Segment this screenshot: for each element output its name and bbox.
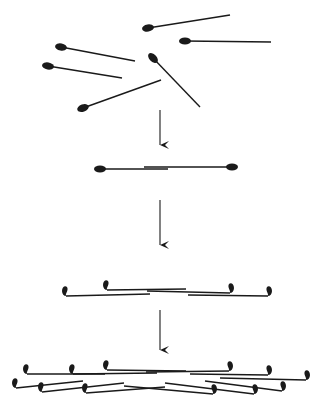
molecule-head: [103, 360, 109, 370]
molecule-tail: [148, 15, 230, 28]
molecule-head: [252, 384, 258, 394]
molecule: [23, 364, 105, 374]
molecule: [146, 51, 200, 107]
assembly-diagram: [0, 0, 323, 404]
molecule-tail: [185, 41, 271, 42]
molecule-tail: [66, 294, 150, 296]
stage-dimer: [94, 164, 238, 173]
molecule-head: [38, 382, 44, 392]
molecule-head: [266, 286, 272, 296]
molecule-head: [94, 166, 106, 173]
molecule-head: [69, 364, 75, 374]
molecule-head: [62, 286, 68, 296]
molecule-head: [76, 103, 90, 114]
molecule-head: [142, 24, 155, 33]
stage-monomers: [42, 15, 271, 113]
molecule-tail: [61, 47, 135, 61]
molecule-head: [228, 283, 234, 293]
molecule-tail: [147, 291, 230, 293]
molecule-head: [266, 365, 272, 375]
molecule: [54, 42, 135, 61]
molecule-head: [304, 370, 310, 380]
molecule-tail: [190, 374, 268, 375]
molecule-head: [179, 37, 191, 44]
molecule-tail: [165, 383, 254, 394]
molecule-tail: [188, 295, 268, 296]
molecule-head: [42, 61, 55, 70]
molecule-tail: [220, 378, 306, 380]
molecule-head: [23, 364, 29, 374]
molecule-head: [227, 361, 233, 371]
molecule-tail: [83, 80, 161, 108]
molecule-head: [226, 164, 238, 171]
molecule: [103, 280, 186, 290]
molecule: [142, 15, 230, 32]
molecule: [103, 360, 186, 371]
molecule: [42, 61, 122, 78]
molecule-tail: [107, 289, 186, 290]
molecule-head: [103, 280, 109, 290]
molecule: [69, 364, 157, 374]
molecule: [179, 37, 271, 44]
molecule: [165, 383, 258, 394]
molecule-head: [82, 383, 88, 393]
molecule-head: [54, 42, 67, 51]
molecule-tail: [48, 66, 122, 78]
molecule-tail: [153, 58, 200, 107]
molecule-tail: [107, 370, 186, 371]
molecule-tail: [73, 373, 157, 374]
stage-staggered-assembly: [62, 280, 272, 296]
molecule: [76, 80, 161, 113]
molecule-tail: [16, 381, 83, 388]
molecule-head: [12, 378, 18, 388]
molecule-head: [280, 381, 286, 391]
molecule-tail: [146, 371, 229, 372]
molecule: [12, 378, 83, 388]
molecule: [147, 283, 234, 293]
stage-network: [12, 360, 310, 394]
